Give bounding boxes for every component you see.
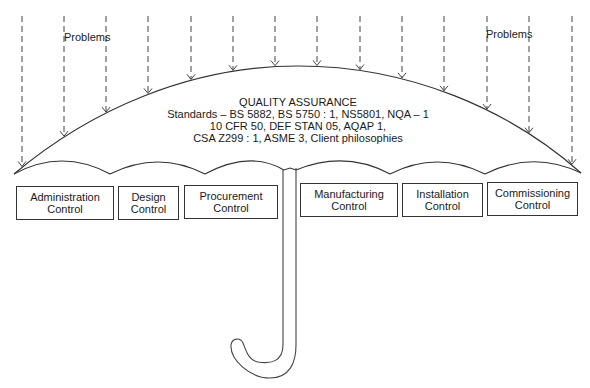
box-label-line2: Control bbox=[515, 199, 550, 211]
administration-control-box: Administration Control bbox=[16, 186, 114, 220]
qa-standards-line-1: Standards – BS 5882, BS 5750 : 1, NS5801… bbox=[150, 108, 446, 120]
problems-label-right: Problems bbox=[486, 28, 532, 40]
box-label-line2: Control bbox=[425, 200, 460, 212]
box-label-line1: Procurement bbox=[200, 190, 263, 202]
box-label-line1: Commissioning bbox=[495, 187, 570, 199]
procurement-control-box: Procurement Control bbox=[184, 185, 278, 219]
umbrella-scalloped-edge bbox=[14, 161, 581, 174]
arrowhead-icon bbox=[398, 73, 406, 78]
box-label-line1: Administration bbox=[30, 191, 100, 203]
box-label-line2: Control bbox=[47, 203, 82, 215]
box-label-line1: Design bbox=[131, 191, 165, 203]
commissioning-control-box: Commissioning Control bbox=[487, 182, 578, 216]
qa-heading: QUALITY ASSURANCE bbox=[150, 96, 446, 108]
box-label-line1: Installation bbox=[416, 188, 469, 200]
box-label-line1: Manufacturing bbox=[314, 188, 384, 200]
quality-assurance-text: QUALITY ASSURANCE Standards – BS 5882, B… bbox=[150, 96, 446, 144]
installation-control-box: Installation Control bbox=[402, 183, 483, 217]
box-label-line2: Control bbox=[131, 203, 166, 215]
manufacturing-control-box: Manufacturing Control bbox=[300, 183, 398, 217]
box-label-line2: Control bbox=[331, 200, 366, 212]
qa-standards-line-2: 10 CFR 50, DEF STAN 05, AQAP 1, bbox=[150, 120, 446, 132]
design-control-box: Design Control bbox=[118, 186, 179, 220]
box-label-line2: Control bbox=[213, 202, 248, 214]
qa-standards-line-3: CSA Z299 : 1, ASME 3, Client philosophie… bbox=[150, 132, 446, 144]
problems-label-left: Problems bbox=[64, 31, 110, 43]
